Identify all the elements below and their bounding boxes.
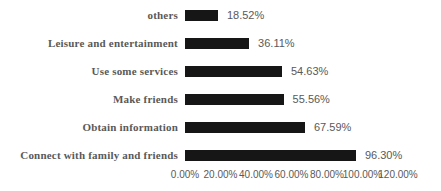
category-label: others [0, 9, 178, 21]
value-label: 36.11% [258, 37, 295, 49]
chart-row: Connect with family and friends 96.30% [0, 141, 441, 169]
value-label: 54.63% [291, 65, 328, 77]
value-label: 18.52% [227, 9, 264, 21]
bar [185, 10, 218, 21]
bar [185, 38, 249, 49]
bar [185, 150, 356, 161]
chart-row: others 18.52% [0, 1, 441, 29]
bar [185, 94, 284, 105]
category-label: Use some services [0, 65, 178, 77]
bar-area: 96.30% [185, 149, 402, 161]
x-tick-label: 80.00% [310, 169, 344, 180]
category-label: Connect with family and friends [0, 149, 178, 161]
bar-area: 18.52% [185, 9, 264, 21]
chart-rows: others 18.52% Leisure and entertainment … [0, 1, 441, 169]
bar-chart: others 18.52% Leisure and entertainment … [0, 0, 441, 191]
category-label: Leisure and entertainment [0, 37, 178, 49]
bar-area: 55.56% [185, 93, 330, 105]
x-tick-label: 100.00% [343, 169, 382, 180]
chart-row: Obtain information 67.59% [0, 113, 441, 141]
value-label: 67.59% [314, 121, 351, 133]
bar [185, 66, 282, 77]
value-label: 55.56% [293, 93, 330, 105]
chart-row: Leisure and entertainment 36.11% [0, 29, 441, 57]
x-tick-label: 20.00% [204, 169, 238, 180]
category-label: Make friends [0, 93, 178, 105]
bar-area: 36.11% [185, 37, 295, 49]
chart-row: Use some services 54.63% [0, 57, 441, 85]
x-tick-label: 40.00% [239, 169, 273, 180]
bar-area: 67.59% [185, 121, 351, 133]
x-tick-label: 0.00% [171, 169, 199, 180]
chart-row: Make friends 55.56% [0, 85, 441, 113]
x-tick-label: 60.00% [275, 169, 309, 180]
bar-area: 54.63% [185, 65, 328, 77]
category-label: Obtain information [0, 121, 178, 133]
value-label: 96.30% [365, 149, 402, 161]
x-axis-tick-labels: 0.00%20.00%40.00%60.00%80.00%100.00%120.… [0, 169, 441, 183]
bar [185, 122, 305, 133]
x-tick-label: 120.00% [378, 169, 417, 180]
